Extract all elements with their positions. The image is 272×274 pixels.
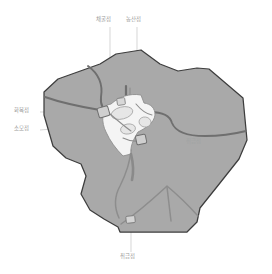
node-marker-south [126, 215, 136, 223]
map-label-bottom: 취급점 [120, 254, 136, 259]
map-canvas [0, 0, 272, 274]
node-marker-southeast [135, 134, 147, 145]
map-label-top-right: 농산점 [126, 17, 142, 22]
node-marker-north [117, 97, 126, 105]
map-label-left-lower: 소모점 [14, 126, 30, 131]
map-label-right: 취급점 [186, 139, 202, 144]
map-figure: 채굴점 농산점 화목점 소모점 취급점 취급점 [0, 0, 272, 274]
map-label-top-left: 채굴점 [96, 17, 112, 22]
map-label-left-upper: 화목점 [14, 108, 30, 113]
